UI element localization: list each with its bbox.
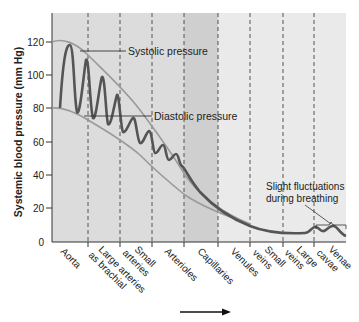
y-tick-labels: 0 20 40 60 80 100 120: [27, 37, 44, 248]
cat-venae-cavae: Venae cavae: [315, 239, 357, 281]
cat-arterioles: Arterioles: [163, 246, 201, 284]
plot-bg-venous: [218, 13, 346, 242]
y-tick-80: 80: [33, 103, 45, 114]
fluctuation-label-line1: Slight fluctuations: [266, 181, 344, 192]
cat-aorta: Aorta: [59, 246, 84, 271]
fluctuation-label-line2: during breathing: [266, 193, 338, 204]
y-axis-label: Systemic blood pressure (mm Hg): [12, 47, 24, 217]
y-tick-100: 100: [27, 70, 44, 81]
blood-pressure-chart: 0 20 40 60 80 100 120 Systemic blood pre…: [0, 0, 359, 322]
systolic-label: Systolic pressure: [128, 45, 208, 57]
x-category-labels: Aorta Large arteries as brachial Small a…: [59, 239, 357, 304]
y-tick-120: 120: [27, 37, 44, 48]
cat-large-veins: Large veins: [283, 239, 323, 279]
flow-direction-arrow-icon: [180, 309, 231, 316]
y-tick-40: 40: [33, 170, 45, 181]
y-tick-20: 20: [33, 203, 45, 214]
diastolic-label: Diastolic pressure: [154, 110, 238, 122]
y-tick-60: 60: [33, 137, 45, 148]
y-tick-0: 0: [38, 237, 44, 248]
